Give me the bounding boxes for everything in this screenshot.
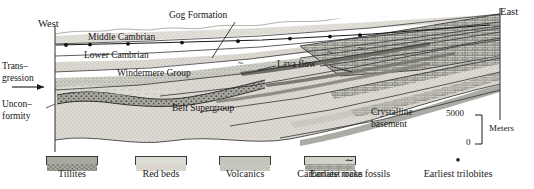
trilobite-dot — [64, 43, 68, 47]
legend-label-red-beds: Red beds — [125, 168, 197, 179]
transgression-label-line2: gression — [2, 74, 34, 84]
trilobite-dot — [328, 35, 332, 39]
compass-west-label: West — [38, 18, 59, 29]
legend-label-tillites: Tillites — [36, 168, 108, 179]
legend-symbol-earliest-trilobites: ● — [443, 155, 473, 164]
legend-label-earliest-trilobites: Earliest trilobites — [410, 168, 506, 179]
legend-swatch-tillites — [46, 156, 98, 165]
trace-fossil-tilde: ~ — [358, 42, 364, 53]
transgression-arrow — [12, 84, 44, 90]
scale-bottom-value: 0 — [466, 138, 471, 147]
trilobite-dot — [358, 33, 362, 37]
unit-label-lower-cambrian: Lower Cambrian — [84, 51, 149, 61]
unit-label-gog-formation: Gog Formation — [169, 11, 227, 21]
unit-label-middle-cambrian: Middle Cambrian — [88, 33, 155, 43]
trace-fossil-tilde: ~ — [327, 46, 333, 57]
scale-top-value: 5000 — [446, 109, 464, 118]
unit-label-lava-flow: Lava flow — [277, 60, 316, 70]
unconformity-label-line1: Uncon– — [2, 100, 32, 110]
legend-swatch-red-beds — [135, 156, 187, 165]
unconformity-pointer — [46, 104, 55, 108]
unit-label-crystalline-basement-line2: basement — [371, 120, 407, 130]
trilobite-dot — [88, 43, 92, 47]
legend-label-earliest-trace-fossils: Earliest trace fossils — [296, 168, 404, 179]
compass-east-label: East — [500, 6, 518, 17]
trilobite-dot — [180, 41, 184, 45]
geologic-cross-section-figure: ~ ~ ~ West East Trans– gression Uncon– f… — [0, 0, 534, 189]
section-body — [55, 10, 500, 150]
legend-symbol-earliest-trace-fossils: ∼ — [334, 154, 364, 167]
trilobite-dot — [288, 37, 292, 41]
transgression-label-line1: Trans– — [2, 62, 28, 72]
trilobite-dot — [236, 39, 240, 43]
unit-label-crystalline-basement-line1: Crystalline — [371, 108, 413, 118]
unit-label-windermere-group: Windermere Group — [117, 69, 191, 79]
legend-swatch-volcanics — [219, 156, 271, 165]
unconformity-label-line2: formity — [2, 112, 31, 122]
trace-fossil-tilde: ~ — [238, 57, 244, 68]
legend: Tillites Red beds Volcanics Carbonate ro… — [0, 154, 534, 189]
unit-label-belt-supergroup: Belt Supergroup — [172, 104, 234, 114]
gog-formation-leader — [212, 22, 235, 58]
scale-unit-label: Meters — [489, 124, 514, 133]
legend-label-volcanics: Volcanics — [209, 168, 281, 179]
